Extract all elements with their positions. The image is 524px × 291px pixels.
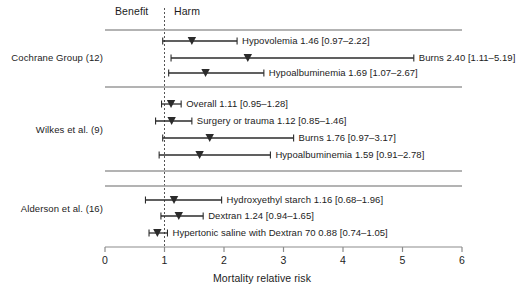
study-label: Overall 1.11 [0.95–1.28] [186, 98, 288, 109]
x-tick-label: 0 [90, 254, 120, 266]
header-benefit: Benefit [115, 5, 148, 17]
forest-row [161, 212, 203, 220]
group-label: Wilkes et al. (9) [36, 124, 103, 135]
x-tick-label: 1 [150, 254, 180, 266]
forest-row [163, 134, 294, 142]
x-tick-label: 4 [328, 254, 358, 266]
study-label: Hypoalbuminemia 1.59 [0.91–2.78] [275, 149, 424, 160]
forest-row [171, 54, 414, 62]
study-label: Dextran 1.24 [0.94–1.65] [208, 210, 314, 221]
header-harm: Harm [174, 5, 200, 17]
study-label: Surgery or trauma 1.12 [0.85–1.46] [197, 115, 347, 126]
study-label: Hypertonic saline with Dextran 70 0.88 [… [172, 227, 387, 238]
forest-row [149, 229, 167, 237]
forest-row [169, 69, 264, 77]
study-label: Hypovolemia 1.46 [0.97–2.22] [242, 35, 370, 46]
x-tick-label: 2 [209, 254, 239, 266]
forest-row [156, 117, 192, 125]
x-axis-title: Mortality relative risk [0, 272, 524, 284]
study-label: Burns 2.40 [1.11–5.19] [419, 52, 516, 63]
x-tick-label: 5 [388, 254, 418, 266]
study-label: Hypoalbuminemia 1.69 [1.07–2.67] [269, 67, 418, 78]
study-label: Burns 1.76 [0.97–3.17] [299, 132, 396, 143]
forest-row [159, 151, 270, 159]
group-label: Cochrane Group (12) [11, 52, 103, 63]
forest-row [145, 196, 221, 204]
x-tick-label: 6 [447, 254, 477, 266]
group-label: Alderson et al. (16) [21, 203, 103, 214]
study-label: Hydroxyethyl starch 1.16 [0.68–1.96] [227, 194, 384, 205]
x-tick-label: 3 [269, 254, 299, 266]
forest-row [163, 37, 237, 45]
forest-plot: BenefitHarmCochrane Group (12)Wilkes et … [0, 0, 524, 291]
